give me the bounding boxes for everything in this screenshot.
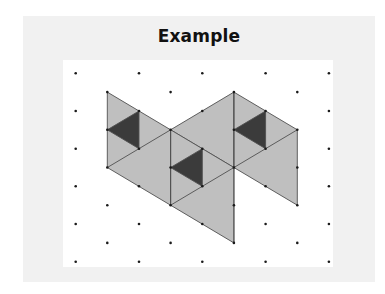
- grid-dot: [74, 72, 77, 75]
- grid-dot: [233, 242, 236, 245]
- grid-dot: [201, 223, 204, 226]
- grid-dot: [74, 147, 77, 150]
- grid-dot: [138, 260, 141, 263]
- grid-dot: [74, 223, 77, 226]
- grid-dot: [201, 260, 204, 263]
- grid-dot: [328, 185, 331, 188]
- grid-dot: [106, 242, 109, 245]
- grid-dot: [328, 110, 331, 113]
- grid-dot: [169, 91, 172, 94]
- grid-dot: [169, 166, 172, 169]
- grid-dot: [233, 204, 236, 207]
- grid-dot: [233, 129, 236, 132]
- isometric-dot-grid-diagram: [0, 0, 385, 294]
- grid-dot: [233, 166, 236, 169]
- grid-dot: [169, 242, 172, 245]
- grid-dot: [328, 72, 331, 75]
- grid-dot: [201, 147, 204, 150]
- grid-dot: [74, 185, 77, 188]
- grid-dot: [106, 91, 109, 94]
- grid-dot: [74, 260, 77, 263]
- grid-dot: [328, 147, 331, 150]
- grid-dot: [328, 260, 331, 263]
- grid-dot: [296, 91, 299, 94]
- grid-dot: [138, 110, 141, 113]
- grid-dot: [138, 147, 141, 150]
- grid-dot: [296, 204, 299, 207]
- grid-dot: [138, 185, 141, 188]
- grid-dot: [264, 223, 267, 226]
- grid-dot: [201, 185, 204, 188]
- grid-dot: [264, 72, 267, 75]
- grid-dot: [264, 110, 267, 113]
- grid-dot: [264, 147, 267, 150]
- grid-dot: [106, 204, 109, 207]
- grid-dot: [296, 242, 299, 245]
- grid-dot: [106, 129, 109, 132]
- grid-dot: [169, 129, 172, 132]
- grid-dot: [74, 110, 77, 113]
- grid-dot: [264, 260, 267, 263]
- grid-dot: [169, 204, 172, 207]
- grid-dot: [138, 223, 141, 226]
- grid-dot: [106, 166, 109, 169]
- grid-dot: [328, 223, 331, 226]
- grid-dot: [233, 91, 236, 94]
- grid-dot: [296, 129, 299, 132]
- grid-dot: [296, 166, 299, 169]
- grid-dot: [138, 72, 141, 75]
- grid-dot: [201, 110, 204, 113]
- grid-dot: [201, 72, 204, 75]
- grid-dot: [264, 185, 267, 188]
